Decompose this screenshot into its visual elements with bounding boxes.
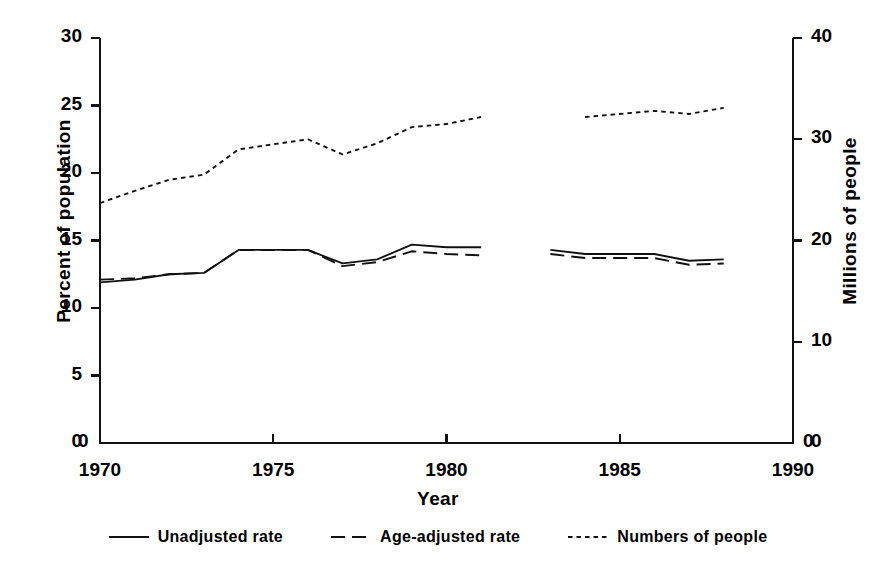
x-axis-tick-label: 1985: [575, 459, 665, 481]
chart-figure: Percent of population Millions of people…: [0, 0, 876, 587]
x-axis-title: Year: [0, 488, 876, 510]
y-axis-right-tick-label: 0: [811, 430, 871, 452]
series-line: [550, 250, 723, 261]
legend-label: Numbers of people: [617, 528, 767, 546]
y-axis-right-tick-label: 30: [811, 126, 871, 148]
legend-label: Age-adjusted rate: [380, 528, 520, 546]
legend-item[interactable]: Numbers of people: [568, 528, 767, 546]
x-axis-tick-label: 1990: [748, 459, 838, 481]
series-line: [100, 117, 481, 203]
y-axis-left-tick-label: 25: [22, 93, 82, 115]
legend-line-dotted-icon: [568, 531, 608, 543]
y-axis-left-tick-label: 0: [22, 430, 82, 452]
tick-marks: [91, 38, 802, 443]
y-axis-right-tick-label: 10: [811, 329, 871, 351]
y-axis-left-tick-label: 15: [22, 228, 82, 250]
y-axis-left-tick-label: 10: [22, 295, 82, 317]
y-axis-right-tick-label: 40: [811, 25, 871, 47]
zero-marker-left: 0: [78, 430, 89, 452]
series-line: [100, 250, 481, 280]
zero-marker-right: 0: [803, 430, 814, 452]
legend-line-solid-icon: [109, 531, 149, 543]
y-axis-left-tick-label: 30: [22, 25, 82, 47]
legend-item[interactable]: Unadjusted rate: [109, 528, 283, 546]
data-series: [100, 108, 724, 282]
legend-label: Unadjusted rate: [158, 528, 283, 546]
x-axis-tick-label: 1980: [402, 459, 492, 481]
x-axis-tick-label: 1970: [55, 459, 145, 481]
y-axis-left-tick-label: 5: [22, 363, 82, 385]
legend-line-dashed-icon: [331, 531, 371, 543]
y-axis-right-tick-label: 20: [811, 228, 871, 250]
legend-item[interactable]: Age-adjusted rate: [331, 528, 520, 546]
x-axis-tick-label: 1975: [228, 459, 318, 481]
axes: [100, 38, 793, 443]
series-line: [550, 254, 723, 265]
chart-legend: Unadjusted rateAge-adjusted rateNumbers …: [0, 528, 876, 546]
y-axis-left-tick-label: 20: [22, 160, 82, 182]
series-line: [585, 108, 724, 117]
